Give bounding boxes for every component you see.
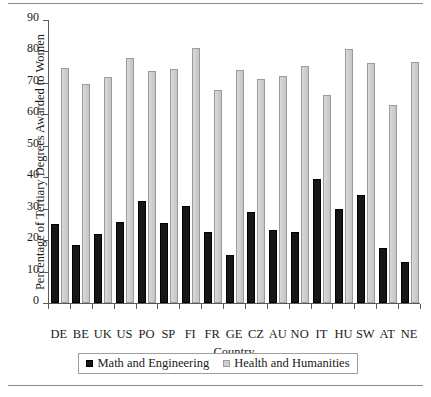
- bar-health-and-humanities: [170, 69, 178, 303]
- bar-health-and-humanities: [126, 58, 134, 303]
- x-axis-line: [48, 303, 420, 304]
- x-axis-tick: [157, 304, 158, 309]
- x-axis-tick: [114, 304, 115, 309]
- bar-health-and-humanities: [236, 70, 244, 303]
- y-axis-line: [48, 20, 49, 304]
- bar-math-and-engineering: [291, 232, 299, 303]
- bar-math-and-engineering: [138, 201, 146, 303]
- bar-math-and-engineering: [94, 234, 102, 303]
- x-axis-tick: [70, 304, 71, 309]
- legend-item-math-and-engineering: Math and Engineering: [86, 357, 209, 370]
- bar-math-and-engineering: [313, 179, 321, 303]
- x-axis-tick-label: NE: [393, 328, 426, 341]
- legend-label: Health and Humanities: [234, 357, 349, 370]
- bar-health-and-humanities: [345, 49, 353, 303]
- figure: 0102030405060708090 DEBEUKUSPOSPFIFRGECZ…: [0, 0, 431, 397]
- bar-math-and-engineering: [116, 222, 124, 303]
- bar-math-and-engineering: [401, 262, 409, 303]
- x-axis-tick: [245, 304, 246, 309]
- x-axis-tick: [376, 304, 377, 309]
- bar-health-and-humanities: [257, 79, 265, 304]
- bar-math-and-engineering: [269, 230, 277, 303]
- x-axis-tick: [398, 304, 399, 309]
- figure-top-rule: [8, 3, 423, 4]
- bar-health-and-humanities: [367, 63, 375, 303]
- chart-legend: Math and Engineering Health and Humaniti…: [78, 353, 358, 374]
- bar-math-and-engineering: [182, 206, 190, 303]
- bar-math-and-engineering: [379, 248, 387, 303]
- bar-health-and-humanities: [411, 62, 419, 303]
- bar-health-and-humanities: [192, 48, 200, 303]
- bar-health-and-humanities: [323, 95, 331, 303]
- bar-math-and-engineering: [335, 209, 343, 303]
- legend-item-health-and-humanities: Health and Humanities: [223, 357, 349, 370]
- bar-health-and-humanities: [104, 77, 112, 303]
- bar-math-and-engineering: [226, 255, 234, 303]
- x-axis-tick: [48, 304, 49, 309]
- x-axis-tick: [289, 304, 290, 309]
- bar-math-and-engineering: [160, 223, 168, 303]
- bar-health-and-humanities: [301, 66, 309, 303]
- gray-square-icon: [223, 360, 230, 367]
- black-square-icon: [86, 360, 93, 367]
- legend-label: Math and Engineering: [97, 357, 209, 370]
- bar-math-and-engineering: [357, 195, 365, 303]
- bar-math-and-engineering: [51, 224, 59, 303]
- y-axis-title: Percentage of Tertiary Degrees Awarded t…: [32, 20, 48, 304]
- x-axis-tick: [420, 304, 421, 309]
- x-axis-tick: [311, 304, 312, 309]
- x-axis-tick: [332, 304, 333, 309]
- bar-math-and-engineering: [204, 232, 212, 303]
- x-axis-tick: [201, 304, 202, 309]
- bar-math-and-engineering: [72, 245, 80, 303]
- figure-bottom-rule: [8, 385, 423, 386]
- x-axis-tick: [92, 304, 93, 309]
- x-axis-tick: [136, 304, 137, 309]
- bar-health-and-humanities: [148, 71, 156, 303]
- x-axis-tick: [179, 304, 180, 309]
- bar-health-and-humanities: [279, 76, 287, 303]
- x-axis-tick: [223, 304, 224, 309]
- bar-health-and-humanities: [389, 105, 397, 303]
- bar-health-and-humanities: [214, 90, 222, 303]
- bar-health-and-humanities: [82, 84, 90, 303]
- plot-area: 0102030405060708090 DEBEUKUSPOSPFIFRGECZ…: [48, 20, 420, 304]
- x-axis-tick: [354, 304, 355, 309]
- bar-math-and-engineering: [247, 212, 255, 303]
- bar-health-and-humanities: [61, 68, 69, 303]
- x-axis-tick: [267, 304, 268, 309]
